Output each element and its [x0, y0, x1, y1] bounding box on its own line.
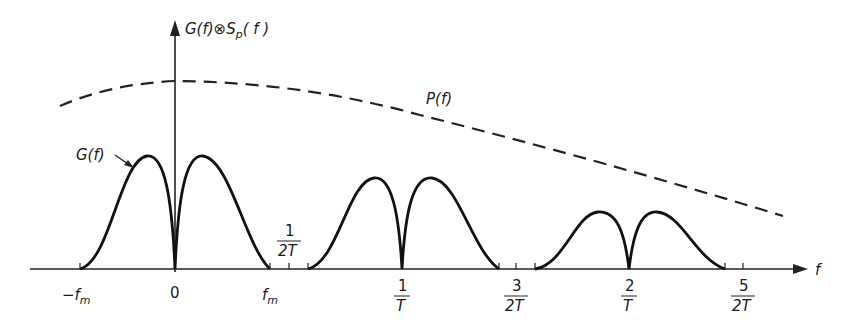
first-replica-lobe: [308, 178, 499, 269]
tick-label-five-half-over-T: 5 2T: [731, 277, 755, 315]
spectrum-diagram: G(f)⊗Sp( f ) f P(f) G(f) −fm 0 fm 1 2T 1…: [0, 0, 841, 336]
svg-text:2: 2: [625, 277, 635, 295]
tick-label-two-over-T: 2 T: [621, 277, 637, 315]
svg-text:1: 1: [398, 277, 408, 295]
pointer-arrowhead-icon: [124, 160, 134, 168]
svg-text:2T: 2T: [505, 297, 526, 315]
pulse-spectrum-label: P(f): [426, 90, 452, 108]
tick-label-three-half-over-T: 3 2T: [504, 277, 528, 315]
svg-text:T: T: [396, 297, 407, 315]
tick-label-half-over-T: 1 2T: [277, 222, 301, 260]
x-axis-label: f: [815, 261, 823, 279]
second-replica-lobe: [535, 212, 725, 269]
x-axis-arrow-icon: [793, 264, 808, 274]
y-axis-arrow-icon: [170, 20, 180, 36]
tick-label-neg-fm: −fm: [62, 286, 91, 307]
signal-spectrum-label: G(f): [76, 146, 105, 164]
svg-text:2T: 2T: [732, 297, 753, 315]
svg-text:T: T: [623, 297, 634, 315]
y-axis-label: G(f)⊗Sp( f ): [185, 20, 269, 41]
svg-text:2T: 2T: [278, 242, 299, 260]
tick-label-one-over-T: 1 T: [394, 277, 410, 315]
tick-label-zero: 0: [170, 284, 180, 302]
svg-text:5: 5: [739, 277, 749, 295]
tick-label-fm: fm: [262, 286, 278, 307]
svg-text:3: 3: [512, 277, 522, 295]
svg-text:1: 1: [285, 222, 295, 240]
